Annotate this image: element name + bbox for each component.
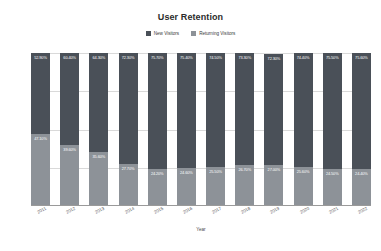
bar-segment-returning-visitors[interactable]: 25.50%	[206, 167, 225, 206]
bar-value-label: 52.90%	[31, 55, 50, 60]
bar-value-label: 39.60%	[60, 147, 79, 152]
bar-value-label: 47.10%	[31, 136, 50, 141]
bar-segment-returning-visitors[interactable]: 47.10%	[31, 134, 50, 206]
bar-segment-returning-visitors[interactable]: 27.00%	[264, 165, 283, 206]
chart-legend: New Visitors Returning Visitors	[0, 31, 381, 36]
bar-value-label: 26.70%	[235, 167, 254, 172]
bar-value-label: 72.30%	[119, 55, 138, 60]
legend-swatch-returning-visitors	[191, 31, 196, 36]
bar-segment-returning-visitors[interactable]: 26.70%	[235, 165, 254, 206]
legend-label-returning-visitors: Returning Visitors	[199, 31, 235, 36]
bar-value-label: 35.60%	[89, 154, 108, 159]
bar-segment-new-visitors[interactable]: 74.40%	[294, 53, 313, 167]
bar-segment-returning-visitors[interactable]: 27.70%	[119, 164, 138, 206]
bar-segment-returning-visitors[interactable]: 25.60%	[294, 167, 313, 206]
bar-segment-new-visitors[interactable]: 73.30%	[235, 53, 254, 165]
bar-value-label: 25.50%	[206, 169, 225, 174]
bar-value-label: 24.40%	[352, 171, 371, 176]
bar-value-label: 75.60%	[352, 55, 371, 60]
bar-segment-new-visitors[interactable]: 72.30%	[264, 54, 283, 165]
bar-segment-returning-visitors[interactable]: 35.60%	[89, 152, 108, 206]
bar-value-label: 27.00%	[264, 167, 283, 172]
bar-segment-new-visitors[interactable]: 75.40%	[177, 53, 196, 168]
bar-column[interactable]: 73.30%26.70%	[235, 53, 254, 206]
bar-segment-returning-visitors[interactable]: 24.20%	[148, 169, 167, 206]
x-axis-line	[31, 205, 371, 206]
bar-segment-returning-visitors[interactable]: 24.50%	[323, 169, 342, 206]
bar-segment-new-visitors[interactable]: 72.30%	[119, 53, 138, 164]
legend-swatch-new-visitors	[146, 31, 151, 36]
chart-container: User Retention New Visitors Returning Vi…	[0, 0, 381, 251]
bar-value-label: 64.30%	[89, 55, 108, 60]
bar-value-label: 24.50%	[323, 171, 342, 176]
bar-column[interactable]: 52.90%47.10%	[31, 53, 50, 206]
bar-value-label: 27.70%	[119, 166, 138, 171]
chart-title: User Retention	[0, 12, 381, 22]
bar-series-group: 52.90%47.10%60.40%39.60%64.30%35.60%72.3…	[31, 53, 371, 206]
bar-segment-returning-visitors[interactable]: 24.60%	[177, 168, 196, 206]
bar-segment-new-visitors[interactable]: 52.90%	[31, 53, 50, 134]
bar-segment-new-visitors[interactable]: 60.40%	[60, 53, 79, 145]
bar-segment-new-visitors[interactable]: 64.30%	[89, 53, 108, 151]
bar-column[interactable]: 64.30%35.60%	[89, 53, 108, 206]
bar-value-label: 73.30%	[235, 55, 254, 60]
bar-column[interactable]: 74.40%25.60%	[294, 53, 313, 206]
bar-value-label: 75.70%	[148, 55, 167, 60]
bar-value-label: 60.40%	[60, 55, 79, 60]
bar-value-label: 24.20%	[148, 171, 167, 176]
bar-column[interactable]: 72.30%27.00%	[264, 53, 283, 206]
bar-value-label: 74.40%	[294, 55, 313, 60]
bar-column[interactable]: 72.30%27.70%	[119, 53, 138, 206]
bar-segment-new-visitors[interactable]: 75.70%	[148, 53, 167, 169]
bar-value-label: 24.60%	[177, 170, 196, 175]
bar-value-label: 75.40%	[177, 55, 196, 60]
plot-area: 100%75%50%25%0% 52.90%47.10%60.40%39.60%…	[31, 53, 371, 206]
legend-item-new-visitors[interactable]: New Visitors	[146, 31, 179, 36]
bar-value-label: 72.30%	[264, 56, 283, 61]
bar-column[interactable]: 75.70%24.20%	[148, 53, 167, 206]
bar-segment-returning-visitors[interactable]: 39.60%	[60, 145, 79, 206]
bar-segment-returning-visitors[interactable]: 24.40%	[352, 169, 371, 206]
x-axis-title: Year	[31, 227, 371, 232]
bar-value-label: 25.60%	[294, 169, 313, 174]
bar-segment-new-visitors[interactable]: 75.50%	[323, 53, 342, 169]
bar-column[interactable]: 75.50%24.50%	[323, 53, 342, 206]
bar-column[interactable]: 75.60%24.40%	[352, 53, 371, 206]
bar-column[interactable]: 60.40%39.60%	[60, 53, 79, 206]
bar-column[interactable]: 74.50%25.50%	[206, 53, 225, 206]
bar-segment-new-visitors[interactable]: 74.50%	[206, 53, 225, 167]
bar-value-label: 75.50%	[323, 55, 342, 60]
bar-segment-new-visitors[interactable]: 75.60%	[352, 53, 371, 169]
bar-column[interactable]: 75.40%24.60%	[177, 53, 196, 206]
legend-item-returning-visitors[interactable]: Returning Visitors	[191, 31, 235, 36]
bar-value-label: 74.50%	[206, 55, 225, 60]
x-axis-ticks: 2011201220132014201520162017201820192020…	[31, 208, 371, 213]
legend-label-new-visitors: New Visitors	[154, 31, 179, 36]
